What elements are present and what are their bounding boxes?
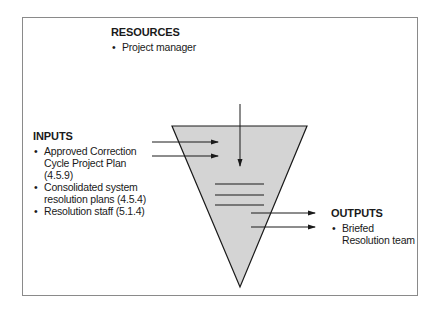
inputs-block: INPUTS Approved Correction Cycle Project…	[33, 130, 148, 217]
inputs-item: Approved Correction Cycle Project Plan (…	[33, 145, 148, 181]
resources-item: Project manager	[111, 41, 261, 53]
resources-block: RESOURCES Project manager	[111, 26, 261, 53]
inputs-title: INPUTS	[33, 130, 148, 142]
inputs-list: Approved Correction Cycle Project Plan (…	[33, 145, 148, 217]
inputs-item: Resolution staff (5.1.4)	[33, 205, 148, 217]
resources-list: Project manager	[111, 41, 261, 53]
outputs-list: Briefed Resolution team	[331, 222, 421, 246]
outputs-title: OUTPUTS	[331, 207, 421, 219]
outputs-item: Briefed Resolution team	[331, 222, 421, 246]
resources-title: RESOURCES	[111, 26, 261, 38]
outputs-block: OUTPUTS Briefed Resolution team	[331, 207, 421, 246]
inputs-item: Consolidated system resolution plans (4.…	[33, 181, 148, 205]
